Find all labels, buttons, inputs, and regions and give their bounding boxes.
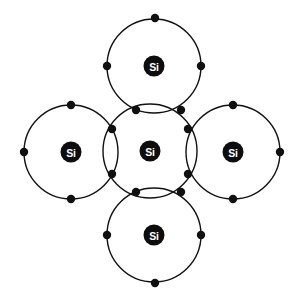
electron-dot-right-outer-bottom xyxy=(229,195,237,203)
nucleus-label-center: Si xyxy=(145,146,155,158)
electron-dot-left-outer-bottom xyxy=(67,195,75,203)
silicon-bonding-diagram: Si Si Si Si Si xyxy=(0,0,298,302)
nucleus-left: Si xyxy=(61,142,82,163)
electron-dot-top-outer-top xyxy=(151,14,159,22)
bond-electron-center-bottom-2 xyxy=(177,188,185,196)
lattice-canvas: Si Si Si Si Si xyxy=(0,0,298,302)
electron-dot-bottom-outer-left xyxy=(103,231,111,239)
bond-electron-center-right-1 xyxy=(184,125,192,133)
electron-dot-right-outer-top xyxy=(229,101,237,109)
nucleus-right: Si xyxy=(223,142,244,163)
bond-electron-center-top-2 xyxy=(177,106,185,114)
bond-electron-center-bottom-1 xyxy=(132,188,140,196)
nucleus-center: Si xyxy=(140,141,161,162)
electron-dot-bottom-outer-bottom xyxy=(151,279,159,287)
bond-electron-center-right-2 xyxy=(184,170,192,178)
nucleus-label-bottom: Si xyxy=(149,230,159,242)
electron-dot-left-outer-left xyxy=(20,148,28,156)
nucleus-bottom: Si xyxy=(144,225,165,246)
nucleus-label-left: Si xyxy=(66,147,76,159)
electron-dot-bottom-outer-right xyxy=(197,231,205,239)
bond-electron-center-left-1 xyxy=(108,125,116,133)
electron-dot-right-outer-right xyxy=(276,148,284,156)
electron-dot-left-outer-top xyxy=(67,101,75,109)
nucleus-label-right: Si xyxy=(228,147,238,159)
nucleus-top: Si xyxy=(144,56,165,77)
electron-dot-top-outer-right xyxy=(197,62,205,70)
bond-electron-center-left-2 xyxy=(108,170,116,178)
nucleus-group: Si Si Si Si Si xyxy=(61,56,244,246)
electron-dot-top-outer-left xyxy=(103,62,111,70)
bond-electron-center-top-1 xyxy=(132,106,140,114)
nucleus-label-top: Si xyxy=(149,61,159,73)
